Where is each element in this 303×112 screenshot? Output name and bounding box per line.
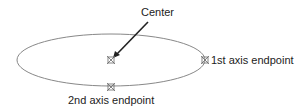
first-axis-label: 1st axis endpoint — [211, 54, 294, 66]
center-label: Center — [141, 6, 174, 18]
first-axis-marker-icon — [201, 56, 209, 64]
second-axis-marker-icon — [107, 83, 115, 91]
center-arrow — [116, 22, 148, 55]
center-marker-icon — [107, 56, 115, 64]
second-axis-label: 2nd axis endpoint — [68, 94, 154, 106]
